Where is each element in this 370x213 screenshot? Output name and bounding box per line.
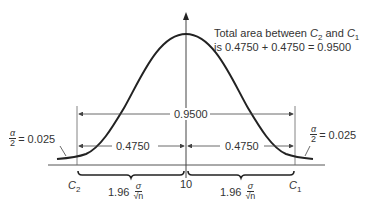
left-tail-label: α2 = 0.025 — [9, 129, 55, 148]
total-area-equation: is 0.4750 + 0.4750 = 0.9500 — [214, 41, 351, 53]
center-value-label: 10 — [180, 178, 192, 190]
right-brace — [188, 171, 294, 178]
axis-arrow-icon — [183, 12, 189, 20]
c1-label: C1 — [289, 179, 301, 196]
right-tail-label: α2 = 0.025 — [310, 125, 356, 144]
left-width-label: 1.96 σ√n — [108, 182, 146, 201]
left-brace — [78, 171, 184, 178]
c2-label: C2 — [68, 179, 80, 196]
right-half-area-label: 0.4750 — [224, 140, 260, 152]
right-width-label: 1.96 σ√n — [220, 182, 258, 201]
total-area-label: 0.9500 — [172, 108, 210, 120]
left-half-area-label: 0.4750 — [115, 140, 151, 152]
